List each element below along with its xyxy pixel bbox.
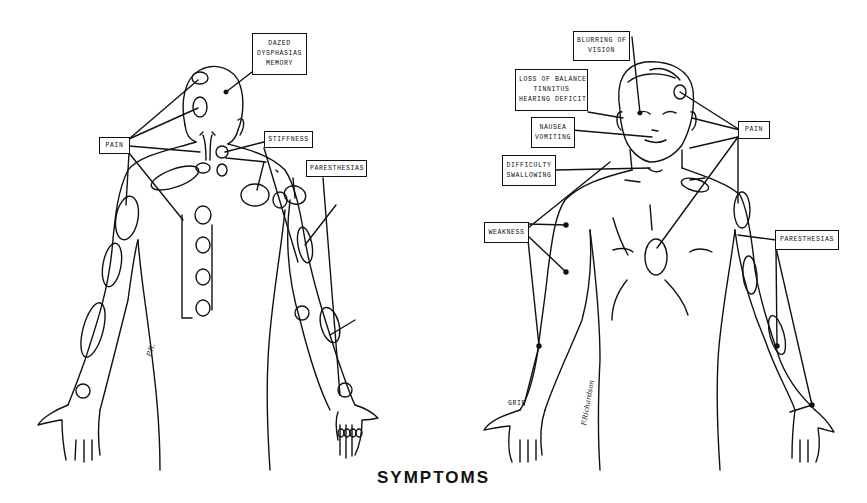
diagram-caption: SYMPTOMS xyxy=(0,468,867,488)
label-text: PAIN xyxy=(742,125,766,135)
label-difficulty-swallowing: DIFFICULTY SWALLOWING xyxy=(502,155,556,186)
label-text: PAIN xyxy=(103,141,126,151)
posterior-body-outline xyxy=(38,66,378,470)
label-line: VISION xyxy=(577,46,626,56)
label-line: DIFFICULTY xyxy=(506,161,552,171)
label-line: VOMITING xyxy=(535,133,571,143)
label-text: STIFFNESS xyxy=(268,135,309,145)
label-text: WEAKNESS xyxy=(488,228,525,238)
label-line: SWALLOWING xyxy=(506,171,552,181)
label-line: MEMORY xyxy=(256,59,303,69)
label-line: NAUSEA xyxy=(535,123,571,133)
label-stiffness: STIFFNESS xyxy=(264,131,313,148)
label-paresthesias-anterior: PARESTHESIAS xyxy=(775,230,839,250)
label-text: PARESTHESIAS xyxy=(779,235,835,245)
label-line: DYSPHASIAS xyxy=(256,49,303,59)
label-line: TINNITUS xyxy=(519,85,584,95)
label-nausea-vomiting: NAUSEA VOMITING xyxy=(531,117,575,148)
label-dazed-dysphasias-memory: DAZED DYSPHASIAS MEMORY xyxy=(252,33,307,75)
label-line: BLURRING OF xyxy=(577,36,626,46)
label-pain-posterior: PAIN xyxy=(99,137,130,154)
label-blurring-of-vision: BLURRING OF VISION xyxy=(573,31,630,61)
symptom-diagram xyxy=(0,0,867,503)
label-grip: GRIP xyxy=(508,400,526,407)
label-line: DAZED xyxy=(256,39,303,49)
label-pain-anterior: PAIN xyxy=(738,121,770,139)
label-weakness: WEAKNESS xyxy=(484,222,529,243)
label-line: HEARING DEFICIT xyxy=(519,95,584,105)
label-text: PARESTHESIAS xyxy=(310,164,363,174)
label-line: LOSS OF BALANCE xyxy=(519,75,584,85)
label-paresthesias-posterior: PARESTHESIAS xyxy=(306,160,367,177)
label-balance-tinnitus-hearing: LOSS OF BALANCE TINNITUS HEARING DEFICIT xyxy=(515,69,588,111)
